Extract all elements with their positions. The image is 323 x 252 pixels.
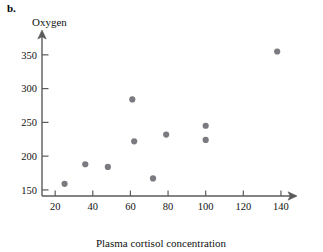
x-tick-label: 100 bbox=[198, 201, 214, 212]
data-point-marker bbox=[163, 131, 169, 137]
data-points bbox=[61, 48, 280, 187]
x-tick-label: 120 bbox=[235, 201, 251, 212]
y-tick-label: 150 bbox=[21, 185, 37, 196]
data-point-marker bbox=[82, 161, 88, 167]
x-axis-title: Plasma cortisol concentration bbox=[96, 237, 227, 249]
x-tick-label: 80 bbox=[163, 201, 174, 212]
y-tick-label: 350 bbox=[21, 50, 37, 61]
x-tick-label: 140 bbox=[273, 201, 289, 212]
y-tick-label: 300 bbox=[21, 83, 37, 94]
data-point-marker bbox=[150, 175, 156, 181]
data-point-marker bbox=[203, 137, 209, 143]
y-tick-label: 250 bbox=[21, 117, 37, 128]
axes bbox=[38, 30, 297, 200]
x-tick-label: 40 bbox=[88, 201, 99, 212]
x-tick-label: 60 bbox=[125, 201, 136, 212]
data-point-marker bbox=[274, 48, 280, 54]
scatter-plot-svg: Oxygen Plasma cortisol concentration 204… bbox=[0, 0, 323, 252]
x-tick-label: 20 bbox=[50, 201, 61, 212]
y-axis-ticks: 150200250300350 bbox=[21, 50, 48, 196]
y-tick-label: 200 bbox=[21, 151, 37, 162]
data-point-marker bbox=[203, 123, 209, 129]
data-point-marker bbox=[131, 138, 137, 144]
scatter-figure: b. Oxygen Plasma cortisol concentration … bbox=[0, 0, 323, 252]
data-point-marker bbox=[129, 96, 135, 102]
data-point-marker bbox=[61, 181, 67, 187]
x-axis-ticks: 20406080100120140 bbox=[50, 191, 289, 213]
y-axis-title: Oxygen bbox=[32, 16, 67, 28]
data-point-marker bbox=[105, 164, 111, 170]
